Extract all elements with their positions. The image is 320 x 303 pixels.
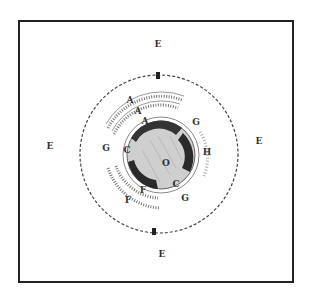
label-g-left: G	[102, 144, 110, 153]
label-a-upper: A	[127, 96, 134, 105]
label-g-right: G	[192, 118, 200, 127]
label-center: O	[162, 159, 170, 168]
ring-marker-top	[156, 72, 160, 79]
label-c-bottom: C	[172, 180, 179, 189]
label-e-left: E	[47, 142, 54, 151]
label-e-bottom: E	[159, 250, 166, 259]
ring-marker-bottom	[152, 228, 156, 235]
label-g-lower: G	[181, 194, 189, 203]
label-f-outer: F	[125, 196, 131, 205]
label-f-lower: F	[140, 186, 146, 195]
label-a-mid: A	[135, 107, 142, 116]
label-h-right: H	[203, 148, 212, 157]
label-e-right: E	[256, 137, 263, 146]
label-e-top: E	[155, 40, 162, 49]
label-a-inner: A	[142, 117, 149, 126]
label-c-left: C	[123, 146, 130, 155]
